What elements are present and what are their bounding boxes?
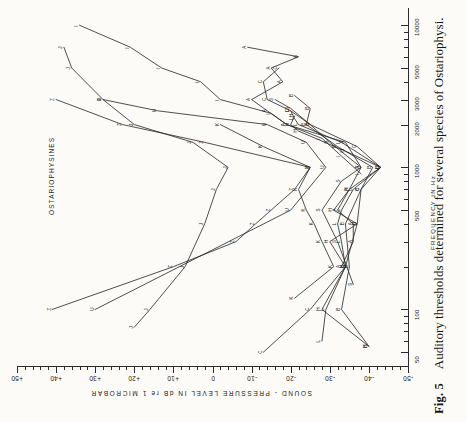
spl-tick-major xyxy=(213,366,214,373)
spl-tick-major xyxy=(17,366,18,373)
frequency-tick-minor xyxy=(404,366,408,367)
series-line-u xyxy=(95,100,326,310)
data-point-marker: B xyxy=(340,222,345,225)
series-line-j xyxy=(64,47,228,327)
spl-tick-major xyxy=(95,366,96,373)
data-point-marker: Z xyxy=(50,98,55,101)
data-point-marker: I xyxy=(125,47,130,48)
figure-caption: Fig. 5 Auditory thresholds determined fo… xyxy=(431,18,447,415)
spl-tick-minor xyxy=(205,366,206,370)
spl-tick-minor xyxy=(33,366,34,370)
series-line-i xyxy=(80,25,362,174)
figure-number: Fig. 5 xyxy=(432,383,446,414)
spl-tick-minor xyxy=(275,366,276,370)
spl-tick-minor xyxy=(126,366,127,370)
data-point-marker: U xyxy=(262,123,267,126)
rotated-figure: ZZZZZZZZZZJJJJJJJJJJJUUUUUUUIIIIIIIIIIAA… xyxy=(0,0,467,422)
data-point-marker: J xyxy=(66,67,71,69)
data-point-marker: B xyxy=(355,188,360,191)
spl-tick-minor xyxy=(189,366,190,370)
data-point-marker: H xyxy=(324,240,329,243)
data-point-marker: S xyxy=(332,240,337,243)
spl-tick-minor xyxy=(48,366,49,370)
data-point-marker: I xyxy=(156,68,161,69)
data-point-marker: S xyxy=(348,283,353,286)
spl-tick-major xyxy=(134,366,135,373)
spl-tick-minor xyxy=(400,366,401,370)
spl-tick-label: -40 xyxy=(361,375,377,382)
frequency-tick-major xyxy=(401,352,408,353)
spl-tick-label: -30 xyxy=(322,375,338,382)
frequency-tick-minor xyxy=(404,47,408,48)
data-point-marker: C xyxy=(258,79,263,83)
spl-tick-minor xyxy=(181,366,182,370)
spl-tick-minor xyxy=(314,366,315,370)
data-point-marker: L xyxy=(336,141,341,144)
spl-tick-label: 0 xyxy=(205,375,221,382)
spl-tick-label: -20 xyxy=(283,375,299,382)
spl-tick-major xyxy=(173,366,174,373)
data-point-marker: B xyxy=(305,107,310,110)
figure-caption-text: Auditory thresholds determined for sever… xyxy=(431,18,446,370)
data-point-marker: A xyxy=(266,65,271,69)
spl-tick-minor xyxy=(228,366,229,370)
frequency-tick-label: 3000 xyxy=(414,96,420,110)
data-point-marker: J xyxy=(58,46,63,48)
frequency-tick-minor xyxy=(404,32,408,33)
data-point-marker: S xyxy=(355,166,360,169)
frequency-tick-label: 1000 xyxy=(414,164,420,178)
spl-tick-minor xyxy=(267,366,268,370)
data-point-marker: K xyxy=(301,208,306,212)
frequency-tick-minor xyxy=(404,224,408,225)
spl-tick-major xyxy=(56,366,57,373)
data-point-marker: J xyxy=(129,326,134,328)
frequency-tick-minor xyxy=(404,199,408,200)
frequency-tick-minor xyxy=(404,189,408,190)
data-point-marker: C xyxy=(258,350,263,354)
frequency-tick-minor xyxy=(404,331,408,332)
spl-tick-minor xyxy=(361,366,362,370)
spl-tick-major xyxy=(291,366,292,373)
data-point-marker: L xyxy=(316,339,321,342)
spl-tick-minor xyxy=(87,366,88,370)
spl-tick-label: +50 xyxy=(9,375,25,382)
data-point-marker: U xyxy=(90,308,95,311)
figure-page: ZZZZZZZZZZJJJJJJJJJJJUUUUUUUIIIIIIIIIIAA… xyxy=(0,0,467,422)
frequency-axis-line xyxy=(408,8,409,367)
spl-tick-major xyxy=(369,366,370,373)
spl-tick-minor xyxy=(385,366,386,370)
spl-tick-minor xyxy=(345,366,346,370)
frequency-tick-minor xyxy=(404,316,408,317)
data-point-marker: J xyxy=(187,141,192,143)
spl-tick-minor xyxy=(25,366,26,370)
spl-tick-minor xyxy=(392,366,393,370)
data-point-marker: K xyxy=(293,187,298,191)
spl-tick-minor xyxy=(283,366,284,370)
spl-tick-major xyxy=(408,366,409,373)
data-point-marker: B xyxy=(289,94,294,97)
data-point-marker: K xyxy=(215,122,220,126)
spl-tick-minor xyxy=(299,366,300,370)
data-point-marker: H xyxy=(375,165,380,168)
data-point-marker: Z xyxy=(250,222,255,225)
data-point-marker: H xyxy=(293,129,298,132)
spl-tick-minor xyxy=(377,366,378,370)
data-point-marker: J xyxy=(129,124,134,126)
frequency-tick-label: 50 xyxy=(414,356,420,363)
data-point-marker: S xyxy=(285,107,290,110)
spl-tick-minor xyxy=(306,366,307,370)
frequency-tick-label: 2000 xyxy=(414,121,420,135)
data-point-marker: U xyxy=(285,208,290,211)
frequency-tick-minor xyxy=(404,174,408,175)
frequency-tick-label: 10000 xyxy=(414,19,420,37)
spl-tick-minor xyxy=(119,366,120,370)
data-point-marker: S xyxy=(269,98,274,101)
data-point-marker: J xyxy=(223,166,228,168)
spl-tick-label: +20 xyxy=(126,375,142,382)
data-point-marker: Z xyxy=(117,123,122,126)
data-series-u: UUUUUUU xyxy=(90,98,326,311)
spl-tick-minor xyxy=(322,366,323,370)
data-point-marker: J xyxy=(199,223,204,225)
data-point-marker: H xyxy=(344,187,349,190)
spl-tick-minor xyxy=(80,366,81,370)
